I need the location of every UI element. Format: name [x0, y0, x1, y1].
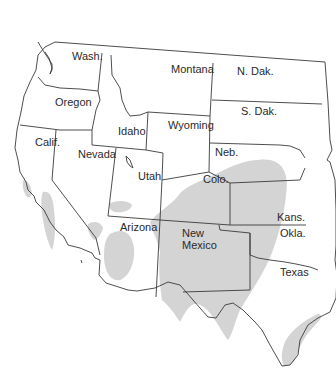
western-us-map	[0, 0, 336, 385]
state-label-wyoming: Wyoming	[168, 119, 214, 131]
border-or-ca-nv	[20, 125, 92, 130]
border-or-id	[92, 91, 100, 130]
shade-arizona	[104, 231, 134, 280]
border-ut-az	[108, 216, 160, 220]
state-label-new-mexico: New Mexico	[182, 227, 222, 251]
state-label-wash: Wash.	[72, 50, 103, 62]
state-label-calif: Calif.	[35, 136, 60, 148]
state-label-texas: Texas	[280, 266, 309, 278]
shade-calif-central	[41, 192, 55, 250]
border-wy-co	[162, 172, 209, 180]
border-mt-wy	[148, 112, 210, 116]
state-label-colo: Colo.	[203, 173, 229, 185]
state-label-n-dak: N. Dak.	[237, 65, 274, 77]
shaded-regions	[23, 160, 321, 366]
border-id-wy	[146, 112, 148, 150]
shade-utah	[109, 201, 132, 212]
shade-texas-coast	[282, 314, 321, 366]
border-id-mt	[111, 55, 148, 116]
state-label-idaho: Idaho	[118, 125, 146, 137]
state-label-neb: Neb.	[215, 146, 238, 158]
great-salt-lake	[126, 156, 133, 168]
state-label-s-dak: S. Dak.	[241, 105, 277, 117]
state-label-okla: Okla.	[280, 227, 306, 239]
border-wa-or	[38, 77, 98, 91]
state-label-montana: Montana	[171, 63, 214, 75]
mark-calif-south	[81, 260, 82, 263]
state-label-kans: Kans.	[277, 211, 305, 223]
border-nd-sd	[212, 100, 322, 104]
state-label-arizona: Arizona	[120, 221, 157, 233]
state-label-nevada: Nevada	[78, 148, 116, 160]
state-label-utah: Utah	[138, 170, 161, 182]
state-label-oregon: Oregon	[55, 96, 92, 108]
